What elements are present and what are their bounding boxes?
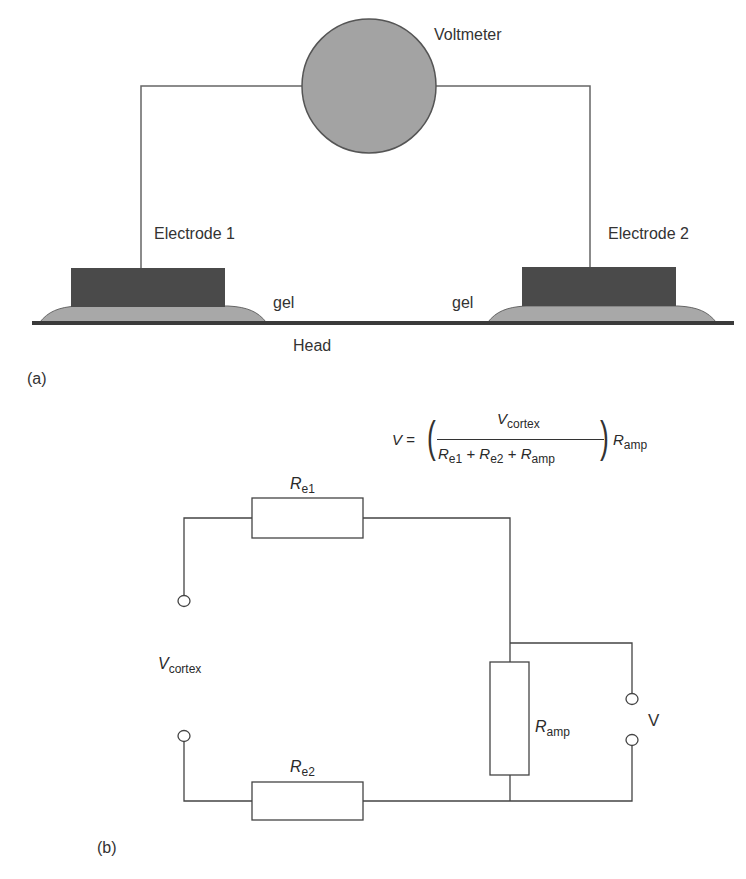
formula-equals: = <box>406 431 415 448</box>
den-r1-sub: e1 <box>449 452 462 466</box>
formula-lhs: V = <box>392 432 415 447</box>
gel-right-label: gel <box>452 295 473 311</box>
re1-label: Re1 <box>290 476 315 492</box>
rhs-sub: amp <box>624 438 647 452</box>
gel-left-label: gel <box>273 295 294 311</box>
formula-rhs: Ramp <box>613 432 647 447</box>
terminal-v-top <box>626 694 638 705</box>
gel-right <box>488 306 716 322</box>
electrode-1 <box>71 268 225 307</box>
terminal-vcortex-top <box>178 596 190 607</box>
rhs-r: R <box>613 431 624 448</box>
formula-lhs-v: V <box>392 431 402 448</box>
gel-left <box>40 306 266 322</box>
voltmeter-icon <box>302 19 436 153</box>
den-r3-sub: amp <box>531 452 554 466</box>
den-plus-1: + <box>466 445 475 462</box>
panel-b-caption: (b) <box>97 840 117 856</box>
ramp-label: Ramp <box>535 719 570 735</box>
terminal-vcortex-bottom <box>178 731 190 742</box>
electrode-2 <box>522 267 676 306</box>
den-r3: R <box>521 445 532 462</box>
vcortex-sub: cortex <box>169 662 202 676</box>
re1-sub: e1 <box>302 482 315 496</box>
voltmeter-label: Voltmeter <box>434 27 502 43</box>
re1-main: R <box>290 475 302 492</box>
den-r1: R <box>438 445 449 462</box>
v-output-label: V <box>648 712 659 729</box>
re2-sub: e2 <box>302 765 315 779</box>
numerator-sub: cortex <box>507 417 540 431</box>
resistor-re2 <box>252 782 363 820</box>
head-label: Head <box>293 338 331 354</box>
den-plus-2: + <box>508 445 517 462</box>
panel-b-wires <box>184 518 632 801</box>
electrode-2-label: Electrode 2 <box>608 226 689 242</box>
terminal-v-bottom <box>626 735 638 746</box>
panel-a-caption: (a) <box>27 371 47 387</box>
formula-numerator: Vcortex <box>497 411 540 426</box>
ramp-sub: amp <box>547 725 570 739</box>
re2-main: R <box>290 758 302 775</box>
formula-right-paren: ) <box>600 415 609 459</box>
ramp-main: R <box>535 718 547 735</box>
vcortex-label: Vcortex <box>158 656 201 672</box>
electrode-1-label: Electrode 1 <box>154 226 235 242</box>
formula-denominator: Re1 + Re2 + Ramp <box>438 446 555 461</box>
fraction-bar <box>437 439 604 440</box>
den-r2-sub: e2 <box>490 452 503 466</box>
formula-left-paren: ( <box>427 415 436 459</box>
numerator-v: V <box>497 410 507 427</box>
re2-label: Re2 <box>290 759 315 775</box>
resistor-re1 <box>252 498 363 538</box>
vcortex-main: V <box>158 655 169 672</box>
resistor-ramp <box>490 662 529 775</box>
den-r2: R <box>479 445 490 462</box>
